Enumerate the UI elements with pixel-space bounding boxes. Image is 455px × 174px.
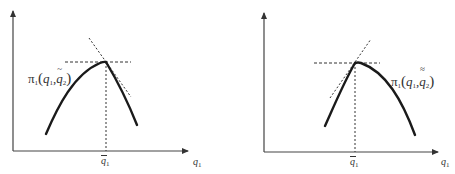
q-subscript: 1 [355,161,359,169]
right-curve-label: π1(q1,≈q2) [391,74,434,90]
q-subscript: 1 [446,161,450,169]
q-subscript: 1 [198,161,202,169]
q2-double-tilde: ≈q [419,75,426,88]
left-curve-label: π1(q1,~q2) [28,71,71,87]
right-steep-tangent [330,39,371,98]
tilde-accent: ~ [56,65,63,74]
right-x-axis-label: q1 [441,157,450,169]
left-x-axis-label: q1 [193,157,202,169]
q2-symbol: q [419,74,426,89]
pi-symbol: π [391,74,398,89]
right-qbar-marker: q1 [350,157,359,169]
double-tilde-accent: ≈ [419,65,426,74]
qbar-symbol: q1 [350,157,359,169]
close-paren: ) [429,73,434,89]
q2-tilde: ~q [56,72,63,85]
pi-symbol: π [28,71,35,86]
q-subscript: 1 [106,160,110,168]
left-qbar-marker: q1 [101,156,110,168]
diagram-canvas [0,0,455,174]
qbar-symbol: q1 [101,156,110,168]
close-paren: ) [66,70,71,86]
